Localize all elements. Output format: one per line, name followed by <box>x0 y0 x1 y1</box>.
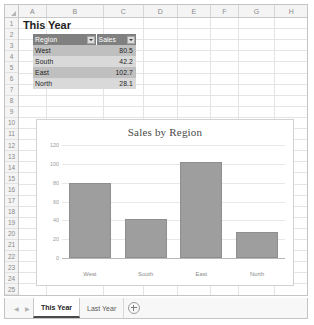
table-header-sales-label: Sales <box>99 36 117 43</box>
chart-bar-slot <box>229 146 285 258</box>
row-header-17[interactable]: 17 <box>5 196 18 207</box>
row-header-22[interactable]: 22 <box>5 251 18 262</box>
column-header-f[interactable]: F <box>211 5 239 17</box>
row-header-16[interactable]: 16 <box>5 184 18 195</box>
row-header-19[interactable]: 19 <box>5 218 18 229</box>
row-header-14[interactable]: 14 <box>5 162 18 173</box>
row-header-4[interactable]: 4 <box>5 51 18 62</box>
chart-y-tick-label: 120 <box>50 142 59 148</box>
column-header-b[interactable]: B <box>47 5 104 17</box>
cell-sales[interactable]: 42.2 <box>96 56 136 67</box>
table-header-row: Region Sales <box>33 34 136 45</box>
row-header-3[interactable]: 3 <box>5 40 18 51</box>
row-header-5[interactable]: 5 <box>5 62 18 73</box>
column-header-a[interactable]: A <box>19 5 47 17</box>
table-row[interactable]: West 80.5 <box>33 45 136 56</box>
sheet-tab-bar: ◀ ▶ This Year Last Year <box>4 298 308 319</box>
add-sheet-button[interactable] <box>124 298 144 318</box>
filter-dropdown-icon[interactable] <box>87 36 95 44</box>
chart-bar-south[interactable] <box>125 219 167 258</box>
cell-region[interactable]: East <box>33 67 96 78</box>
chart-y-tick-label: 100 <box>50 161 59 167</box>
row-header-column: 1234567891011121314151617181920212223242… <box>5 18 19 295</box>
row-header-13[interactable]: 13 <box>5 151 18 162</box>
cell-sales[interactable]: 80.5 <box>96 45 136 56</box>
row-header-1[interactable]: 1 <box>5 18 18 29</box>
table-header-region[interactable]: Region <box>33 34 96 45</box>
chevron-right-icon[interactable]: ▶ <box>22 298 33 318</box>
chart-y-tick-label: 20 <box>53 236 59 242</box>
chart-x-tick-label: East <box>174 271 230 277</box>
cell-region[interactable]: South <box>33 56 96 67</box>
row-header-23[interactable]: 23 <box>5 262 18 273</box>
chart-title: Sales by Region <box>37 126 293 138</box>
row-header-20[interactable]: 20 <box>5 229 18 240</box>
select-all-triangle-icon <box>11 11 16 16</box>
column-header-row: ABCDEFGH <box>5 5 307 18</box>
chart-x-tick-label: West <box>62 271 118 277</box>
table-header-region-label: Region <box>35 36 57 43</box>
spreadsheet-window: ABCDEFGH 1234567891011121314151617181920… <box>0 0 314 325</box>
gridline-horizontal <box>19 117 307 118</box>
data-table[interactable]: Region Sales West 80.5 South 42.2 <box>33 34 136 89</box>
chart-plot-area: 020406080100120 <box>62 146 285 259</box>
worksheet-grid[interactable]: ABCDEFGH 1234567891011121314151617181920… <box>4 4 308 296</box>
row-header-11[interactable]: 11 <box>5 129 18 140</box>
row-header-21[interactable]: 21 <box>5 240 18 251</box>
gridline-horizontal <box>19 95 307 96</box>
column-header-g[interactable]: G <box>239 5 275 17</box>
cell-region[interactable]: North <box>33 78 96 89</box>
table-row[interactable]: South 42.2 <box>33 56 136 67</box>
row-header-2[interactable]: 2 <box>5 29 18 40</box>
chevron-left-icon[interactable]: ◀ <box>11 298 22 318</box>
chart-bar-west[interactable] <box>69 183 111 258</box>
column-header-e[interactable]: E <box>178 5 211 17</box>
chart-x-tick-label: South <box>118 271 174 277</box>
chart-y-tick-label: 80 <box>53 180 59 186</box>
chart-y-tick-label: 40 <box>53 217 59 223</box>
chart-bar-slot <box>62 146 118 258</box>
sheet-tab-last-year[interactable]: Last Year <box>80 298 124 318</box>
chart-x-tick-label: North <box>229 271 285 277</box>
column-header-c[interactable]: C <box>104 5 144 17</box>
table-header-sales[interactable]: Sales <box>96 34 136 45</box>
row-header-15[interactable]: 15 <box>5 173 18 184</box>
chart-y-tick-label: 0 <box>56 255 59 261</box>
cell-region[interactable]: West <box>33 45 96 56</box>
column-header-d[interactable]: D <box>144 5 178 17</box>
plus-circle-icon <box>128 302 140 314</box>
row-header-25[interactable]: 25 <box>5 284 18 295</box>
cell-sales[interactable]: 28.1 <box>96 78 136 89</box>
row-header-24[interactable]: 24 <box>5 273 18 284</box>
chart-object[interactable]: Sales by Region 020406080100120 WestSout… <box>36 119 294 286</box>
row-header-9[interactable]: 9 <box>5 107 18 118</box>
table-row[interactable]: East 102.7 <box>33 67 136 78</box>
gridline-horizontal <box>19 106 307 107</box>
chart-bar-east[interactable] <box>180 162 222 258</box>
chart-y-tick-label: 60 <box>53 199 59 205</box>
chart-x-axis-line <box>62 258 285 259</box>
row-header-12[interactable]: 12 <box>5 140 18 151</box>
chart-bar-north[interactable] <box>236 232 278 258</box>
row-header-8[interactable]: 8 <box>5 96 18 107</box>
chart-x-tick-labels: WestSouthEastNorth <box>62 271 285 277</box>
gridline-horizontal <box>19 295 307 296</box>
chart-bars <box>62 146 285 258</box>
sheet-tab-this-year[interactable]: This Year <box>33 298 80 318</box>
chart-bar-slot <box>118 146 174 258</box>
chart-bar-slot <box>174 146 230 258</box>
table-row[interactable]: North 28.1 <box>33 78 136 89</box>
filter-dropdown-icon[interactable] <box>127 36 135 44</box>
page-title: This Year <box>23 19 71 31</box>
select-all-button[interactable] <box>5 5 19 17</box>
row-header-7[interactable]: 7 <box>5 85 18 96</box>
cell-sales[interactable]: 102.7 <box>96 67 136 78</box>
column-header-h[interactable]: H <box>275 5 308 17</box>
row-header-10[interactable]: 10 <box>5 118 18 129</box>
row-header-6[interactable]: 6 <box>5 73 18 84</box>
row-header-18[interactable]: 18 <box>5 207 18 218</box>
